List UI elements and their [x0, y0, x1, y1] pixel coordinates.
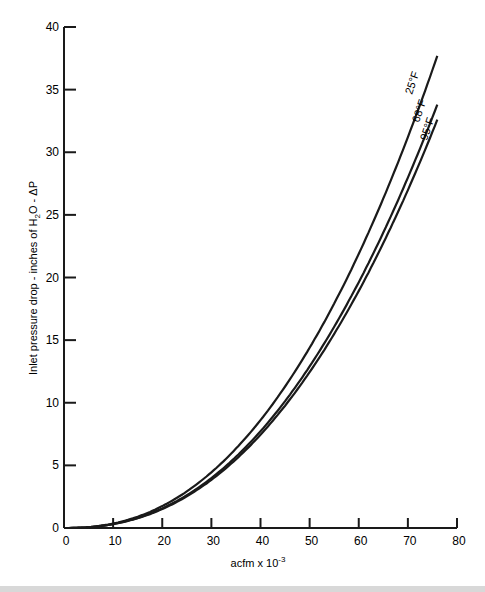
y-tick-label: 25 — [46, 208, 60, 222]
x-tick-label: 0 — [63, 534, 70, 548]
series-label: 25°F — [402, 69, 421, 95]
bottom-border — [0, 586, 485, 592]
curve-25f — [64, 56, 437, 528]
axes: 051015202530354001020304050607080 — [46, 20, 466, 548]
series-labels: 25°F68°F95°F — [402, 69, 436, 141]
x-tick-label: 80 — [452, 534, 466, 548]
y-axis-label: Inlet pressure drop - inches of H2O - ΔP — [27, 181, 42, 375]
curve-68f — [64, 105, 437, 528]
curves — [64, 56, 437, 528]
curve-95f — [64, 120, 437, 528]
y-tick-label: 20 — [46, 271, 60, 285]
y-tick-label: 10 — [46, 396, 60, 410]
x-tick-label: 40 — [256, 534, 270, 548]
x-tick-label: 30 — [207, 534, 221, 548]
chart: 051015202530354001020304050607080 Inlet … — [0, 0, 485, 592]
x-tick-label: 70 — [403, 534, 417, 548]
y-tick-label: 15 — [46, 333, 60, 347]
x-axis-label: acfm x 10-3 — [231, 555, 286, 569]
x-tick-label: 60 — [354, 534, 368, 548]
x-tick-label: 50 — [305, 534, 319, 548]
x-tick-label: 20 — [158, 534, 172, 548]
y-tick-label: 35 — [46, 83, 60, 97]
x-tick-label: 10 — [108, 534, 122, 548]
y-tick-label: 0 — [52, 521, 59, 535]
y-tick-label: 30 — [46, 145, 60, 159]
y-tick-label: 5 — [52, 458, 59, 472]
y-tick-label: 40 — [46, 20, 60, 34]
